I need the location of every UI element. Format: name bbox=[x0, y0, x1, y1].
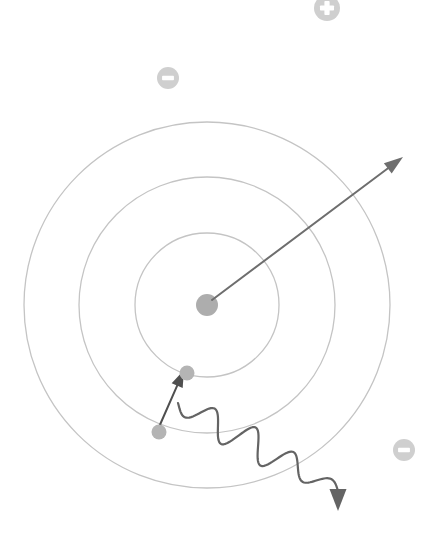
minus-icon-bar bbox=[398, 448, 410, 452]
plus-icon-vertical-bar bbox=[324, 1, 329, 15]
electron-inner bbox=[180, 366, 195, 381]
emitted-photon-wave bbox=[178, 403, 347, 511]
photon-arrowhead bbox=[330, 489, 347, 511]
nucleus-radius-vector bbox=[212, 157, 403, 300]
bohr-atom-diagram bbox=[0, 0, 446, 554]
electron-middle bbox=[152, 425, 167, 440]
negative-charge-lower bbox=[393, 439, 415, 461]
positive-charge bbox=[314, 0, 340, 21]
minus-icon-bar bbox=[162, 76, 174, 80]
atom-diagram-canvas bbox=[0, 0, 446, 554]
negative-charge-upper bbox=[157, 67, 179, 89]
jump-arrow-shaft bbox=[159, 383, 178, 427]
electron-jump-arrow bbox=[159, 370, 184, 427]
radius-vector-arrowhead bbox=[384, 157, 403, 174]
photon-wave-path bbox=[178, 403, 338, 491]
radius-vector-shaft bbox=[212, 166, 391, 300]
